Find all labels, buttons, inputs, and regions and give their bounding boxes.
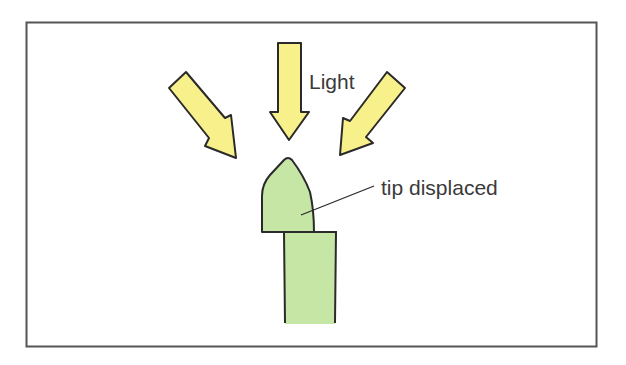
light-arrow-center (270, 43, 309, 140)
tip-label: tip displaced (381, 176, 498, 199)
plant-stem-fill (285, 233, 335, 324)
diagram-canvas: Light tip displaced (0, 0, 626, 365)
light-arrows (169, 43, 405, 158)
plant-tip (262, 158, 314, 232)
light-arrow-left (169, 72, 236, 158)
light-label: Light (309, 70, 355, 93)
